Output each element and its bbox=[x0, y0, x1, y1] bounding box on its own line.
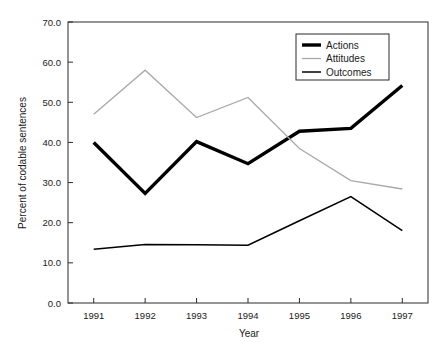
legend-label-outcomes: Outcomes bbox=[326, 67, 372, 78]
x-tick-label: 1997 bbox=[392, 310, 413, 321]
x-tick-label: 1996 bbox=[340, 310, 361, 321]
legend-label-attitudes: Attitudes bbox=[326, 53, 365, 64]
y-tick-label: 0.0 bbox=[48, 298, 61, 309]
x-tick-label: 1995 bbox=[289, 310, 310, 321]
chart-legend: ActionsAttitudesOutcomes bbox=[296, 34, 389, 80]
series-line-attitudes bbox=[94, 70, 403, 189]
x-tick-label: 1993 bbox=[186, 310, 207, 321]
series-line-outcomes bbox=[94, 197, 403, 250]
legend-label-actions: Actions bbox=[326, 40, 359, 51]
line-chart: 0.010.020.030.040.050.060.070.0 19911992… bbox=[0, 0, 445, 351]
y-tick-label: 70.0 bbox=[43, 17, 62, 28]
series-line-actions bbox=[94, 85, 403, 193]
y-tick-label: 40.0 bbox=[43, 137, 62, 148]
y-tick-label: 10.0 bbox=[43, 257, 62, 268]
data-series-group bbox=[94, 70, 403, 249]
x-axis: 1991199219931994199519961997 bbox=[83, 298, 413, 321]
figure-container: 0.010.020.030.040.050.060.070.0 19911992… bbox=[0, 0, 445, 351]
x-axis-title: Year bbox=[239, 328, 260, 339]
x-tick-label: 1991 bbox=[83, 310, 104, 321]
y-tick-label: 60.0 bbox=[43, 57, 62, 68]
y-axis-title: Percent of codable sentences bbox=[17, 97, 28, 229]
y-tick-label: 50.0 bbox=[43, 97, 62, 108]
x-tick-label: 1992 bbox=[135, 310, 156, 321]
y-tick-label: 30.0 bbox=[43, 177, 62, 188]
x-tick-label: 1994 bbox=[237, 310, 258, 321]
y-tick-label: 20.0 bbox=[43, 217, 62, 228]
